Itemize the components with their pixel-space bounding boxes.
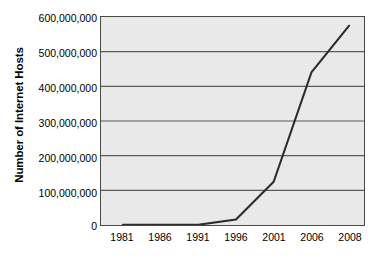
y-tick-label-400000000: 400,000,000	[7, 83, 97, 94]
y-tick-label-200000000: 200,000,000	[7, 153, 97, 164]
x-tick-label-2008: 2008	[326, 231, 374, 243]
y-tick-label-300000000: 300,000,000	[7, 118, 97, 129]
y-tick-label-600000000: 600,000,000	[7, 13, 97, 24]
plot-svg	[101, 17, 364, 225]
y-tick-label-0: 0	[7, 221, 97, 232]
gridlines	[101, 52, 364, 191]
data-series-line	[123, 26, 349, 225]
y-tick-label-500000000: 500,000,000	[7, 48, 97, 59]
internet-hosts-line-chart: Number of Internet Hosts 600,000,000 500…	[0, 0, 389, 259]
plot-area	[100, 16, 365, 226]
y-tick-label-100000000: 100,000,000	[7, 188, 97, 199]
